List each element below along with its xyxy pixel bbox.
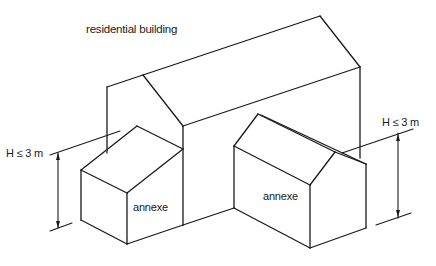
annexe-left-label: annexe [133, 201, 168, 213]
annexe-right-label: annexe [263, 190, 298, 202]
height-limit-right-label: H ≤ 3 m [382, 116, 419, 128]
height-limit-left-label: H ≤ 3 m [6, 147, 43, 159]
diagram-title: residential building [86, 23, 177, 35]
annexe-right [234, 114, 366, 248]
annexe-left [81, 126, 183, 244]
dimension-right [342, 129, 413, 225]
dimension-left [50, 131, 120, 231]
building-diagram [0, 0, 436, 266]
